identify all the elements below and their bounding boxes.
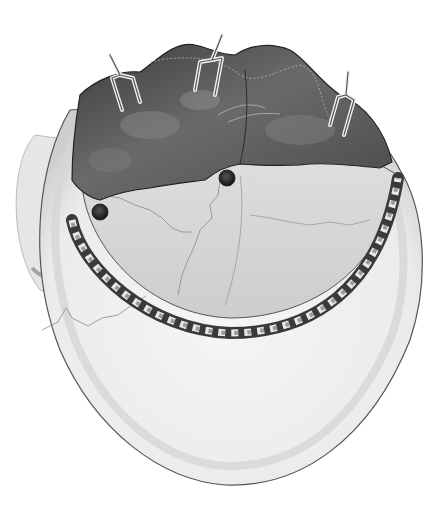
burr-hole: [219, 170, 235, 186]
craniotomy-illustration: [0, 0, 437, 518]
illustration-svg: [0, 0, 437, 518]
burr-hole: [92, 204, 108, 220]
